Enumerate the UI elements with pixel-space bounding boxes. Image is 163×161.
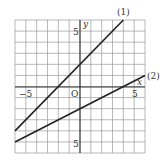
graph: (1) (2) x y O −5 5 5 5 xyxy=(0,0,163,161)
y-axis-label: y xyxy=(82,19,89,29)
line1-label: (1) xyxy=(117,7,130,17)
origin-label: O xyxy=(71,89,78,99)
y-tick-pos5: 5 xyxy=(73,27,79,37)
x-axis-label: x xyxy=(137,77,142,87)
line2-label: (2) xyxy=(147,71,160,81)
x-tick-pos5: 5 xyxy=(132,89,138,99)
x-tick-neg5: −5 xyxy=(19,89,33,99)
y-tick-neg5: 5 xyxy=(73,139,79,149)
